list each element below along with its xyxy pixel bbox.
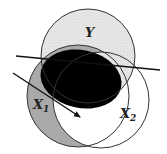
venn-diagram: Y X1 X2	[0, 0, 167, 154]
